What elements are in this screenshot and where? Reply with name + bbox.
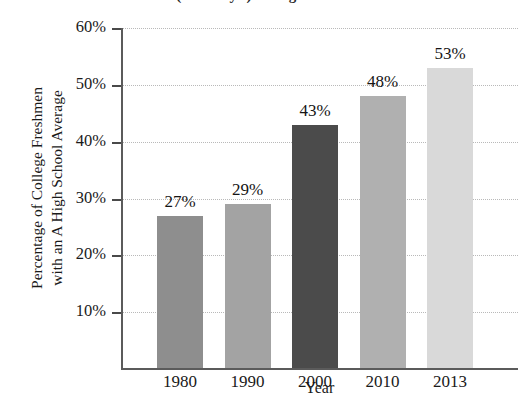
y-tick-label-20: 20% [46, 246, 106, 262]
bar-chart-figure: (18 - 19 yr.) at High School Percentage … [0, 0, 529, 410]
y-tick-mark-60 [112, 28, 121, 30]
bar-2010 [360, 96, 406, 369]
bar-2013 [427, 68, 473, 369]
bar-value-label-2000: 43% [280, 102, 350, 119]
y-tick-mark-10 [112, 312, 121, 314]
gridline-60 [121, 28, 518, 29]
y-axis-title-line-1: Percentage of College Freshmen [27, 23, 47, 353]
y-tick-label-30: 30% [46, 190, 106, 206]
bar-2000 [292, 125, 338, 369]
y-tick-label-60: 60% [46, 19, 106, 35]
bar-value-label-1990: 29% [213, 181, 283, 198]
bar-value-label-2013: 53% [415, 45, 485, 62]
x-axis-title: Year [121, 379, 518, 397]
bar-1980 [157, 216, 203, 369]
chart-title: (18 - 19 yr.) at High School [0, 0, 529, 3]
x-axis-line [121, 368, 518, 370]
y-tick-label-10: 10% [46, 303, 106, 319]
bar-value-label-2010: 48% [348, 73, 418, 90]
bar-1990 [225, 204, 271, 369]
y-tick-mark-40 [112, 142, 121, 144]
y-axis-line [121, 28, 123, 369]
y-tick-mark-20 [112, 255, 121, 257]
y-tick-mark-30 [112, 199, 121, 201]
y-tick-label-40: 40% [46, 133, 106, 149]
y-tick-label-50: 50% [46, 76, 106, 92]
plot-area: 27%29%43%48%53% [121, 28, 518, 369]
y-tick-mark-50 [112, 85, 121, 87]
bar-value-label-1980: 27% [145, 193, 215, 210]
